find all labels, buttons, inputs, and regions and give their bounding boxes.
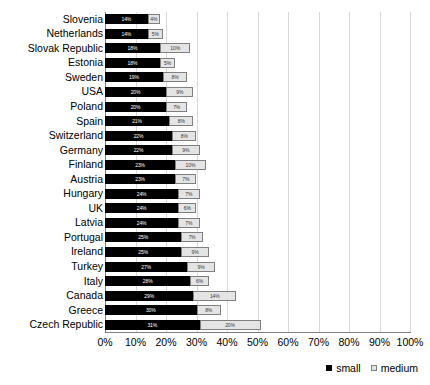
bar-segment-small: 14% (105, 14, 148, 24)
x-tick-label: 60% (277, 336, 298, 348)
bar-value-label: 24% (137, 220, 147, 226)
category-label: Hungary (0, 188, 103, 199)
bar-segment-small: 21% (105, 116, 169, 126)
legend-label: medium (381, 362, 418, 374)
bar-value-label: 14% (121, 16, 131, 22)
bar-segment-small: 14% (105, 29, 148, 39)
bar-row: Germany22%9% (105, 143, 410, 158)
bar-segment-small: 18% (105, 58, 160, 68)
bar-segment-medium: 7% (175, 174, 196, 184)
bar-value-label: 14% (210, 293, 220, 299)
x-tick-label: 20% (155, 336, 176, 348)
bar-segment-small: 20% (105, 102, 166, 112)
x-tick-label: 10% (125, 336, 146, 348)
bar-value-label: 18% (128, 60, 138, 66)
bar-row: UK24%6% (105, 201, 410, 216)
bar-segment-small: 29% (105, 291, 193, 301)
bar-row: Ireland25%9% (105, 245, 410, 260)
bar-segment-medium: 10% (175, 160, 206, 170)
bar-segment-medium: 8% (197, 305, 221, 315)
bar-segment-small: 28% (105, 276, 190, 286)
bar-value-label: 29% (144, 293, 154, 299)
bar-value-label: 23% (135, 162, 145, 168)
bar-value-label: 7% (185, 191, 192, 197)
bar-value-label: 18% (128, 45, 138, 51)
bar-value-label: 9% (182, 147, 189, 153)
gridline (410, 12, 411, 332)
bar-segment-medium: 5% (148, 29, 163, 39)
bar-segment-medium: 4% (148, 14, 160, 24)
bar-value-label: 5% (152, 31, 159, 37)
bar-value-label: 7% (182, 176, 189, 182)
category-label: Latvia (0, 217, 103, 228)
bar-value-label: 19% (129, 74, 139, 80)
x-axis-line (105, 332, 411, 333)
x-tick-label: 50% (247, 336, 268, 348)
bar-value-label: 7% (173, 104, 180, 110)
bar-row: Slovenia14%4% (105, 12, 410, 27)
bar-value-label: 25% (138, 249, 148, 255)
bar-segment-medium: 9% (172, 145, 199, 155)
bar-row: Czech Republic31%20% (105, 317, 410, 332)
bar-row: Latvia24%7% (105, 216, 410, 231)
category-label: Austria (0, 174, 103, 185)
category-label: Portugal (0, 232, 103, 243)
x-axis-tick-labels: 0%10%20%30%40%50%60%70%80%90%100% (105, 336, 410, 352)
bar-segment-medium: 10% (160, 43, 191, 53)
bar-row: Greece30%8% (105, 303, 410, 318)
stacked-bar-chart: Slovenia14%4%Netherlands14%5%Slovak Repu… (0, 0, 430, 385)
bar-value-label: 9% (176, 89, 183, 95)
bar-segment-medium: 7% (178, 218, 199, 228)
bar-row: Sweden19%8% (105, 70, 410, 85)
legend-swatch-small (326, 365, 332, 371)
bar-value-label: 20% (225, 322, 235, 328)
bar-segment-small: 19% (105, 72, 163, 82)
bar-value-label: 22% (134, 147, 144, 153)
category-label: Canada (0, 290, 103, 301)
bar-value-label: 23% (135, 176, 145, 182)
bar-segment-medium: 9% (187, 262, 214, 272)
bar-segment-small: 18% (105, 43, 160, 53)
bar-segment-medium: 8% (172, 131, 196, 141)
category-label: Poland (0, 101, 103, 112)
bar-value-label: 8% (178, 118, 185, 124)
bar-segment-medium: 6% (190, 276, 208, 286)
bar-segment-medium: 9% (181, 247, 208, 257)
category-label: Estonia (0, 57, 103, 68)
bar-row: Switzerland22%8% (105, 128, 410, 143)
bar-segment-medium: 8% (169, 116, 193, 126)
bar-value-label: 7% (188, 234, 195, 240)
category-label: USA (0, 86, 103, 97)
chart-legend: smallmedium (0, 362, 418, 374)
bar-value-label: 20% (131, 89, 141, 95)
category-label: Switzerland (0, 130, 103, 141)
bar-value-label: 10% (170, 45, 180, 51)
category-label: Finland (0, 159, 103, 170)
bar-segment-small: 25% (105, 232, 181, 242)
bar-segment-small: 24% (105, 189, 178, 199)
bar-value-label: 20% (131, 104, 141, 110)
category-label: Sweden (0, 72, 103, 83)
legend-swatch-medium (371, 365, 377, 371)
bar-value-label: 8% (172, 74, 179, 80)
bar-value-label: 31% (147, 322, 157, 328)
bar-row: USA20%9% (105, 85, 410, 100)
bar-value-label: 4% (150, 16, 157, 22)
bar-segment-medium: 9% (166, 87, 193, 97)
bar-rows: Slovenia14%4%Netherlands14%5%Slovak Repu… (105, 12, 410, 332)
category-label: Slovenia (0, 14, 103, 25)
bar-segment-small: 30% (105, 305, 197, 315)
category-label: Spain (0, 116, 103, 127)
bar-row: Poland20%7% (105, 99, 410, 114)
bar-segment-small: 23% (105, 160, 175, 170)
bar-value-label: 21% (132, 118, 142, 124)
bar-segment-medium: 7% (181, 232, 202, 242)
bar-row: Italy28%6% (105, 274, 410, 289)
bar-segment-small: 22% (105, 131, 172, 141)
x-tick-label: 0% (97, 336, 112, 348)
plot-area: Slovenia14%4%Netherlands14%5%Slovak Repu… (105, 12, 410, 332)
category-label: Germany (0, 145, 103, 156)
bar-row: Estonia18%5% (105, 56, 410, 71)
bar-value-label: 6% (184, 205, 191, 211)
bar-segment-medium: 7% (178, 189, 199, 199)
